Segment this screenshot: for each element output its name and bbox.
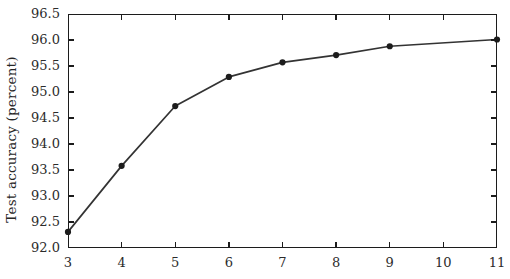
x-tick-mark xyxy=(282,242,283,248)
x-tick-label: 8 xyxy=(316,255,356,270)
y-tick-label: 95.0 xyxy=(31,84,60,99)
y-tick-mark xyxy=(491,143,497,144)
y-tick-mark xyxy=(68,117,74,118)
y-tick-label: 92.5 xyxy=(31,214,60,229)
plot-area-frame xyxy=(68,14,497,248)
x-tick-mark xyxy=(175,242,176,248)
x-tick-mark xyxy=(389,242,390,248)
x-tick-mark xyxy=(443,14,444,20)
x-tick-mark xyxy=(443,242,444,248)
x-tick-label: 4 xyxy=(102,255,142,270)
y-tick-label: 96.5 xyxy=(31,6,60,21)
y-tick-mark xyxy=(68,143,74,144)
y-tick-label: 95.5 xyxy=(31,58,60,73)
y-tick-mark xyxy=(491,221,497,222)
y-tick-mark xyxy=(491,195,497,196)
x-tick-mark xyxy=(335,242,336,248)
y-tick-label: 93.0 xyxy=(31,188,60,203)
y-tick-mark xyxy=(68,169,74,170)
x-tick-label: 5 xyxy=(155,255,195,270)
x-tick-label: 10 xyxy=(423,255,463,270)
y-tick-label: 93.5 xyxy=(31,162,60,177)
x-tick-mark xyxy=(175,14,176,20)
x-tick-label: 3 xyxy=(48,255,88,270)
x-tick-label: 7 xyxy=(263,255,303,270)
x-tick-mark xyxy=(282,14,283,20)
y-tick-mark xyxy=(491,39,497,40)
x-tick-label: 11 xyxy=(477,255,510,270)
y-tick-label: 96.0 xyxy=(31,32,60,47)
y-axis-label: Test accuracy (percent) xyxy=(0,0,22,279)
y-tick-label: 92.0 xyxy=(31,240,60,255)
y-tick-mark xyxy=(68,39,74,40)
x-tick-mark xyxy=(228,242,229,248)
y-tick-mark xyxy=(491,65,497,66)
y-tick-mark xyxy=(68,65,74,66)
y-tick-mark xyxy=(68,91,74,92)
y-tick-label: 94.0 xyxy=(31,136,60,151)
x-tick-label: 9 xyxy=(370,255,410,270)
x-tick-mark xyxy=(121,242,122,248)
y-tick-mark xyxy=(68,195,74,196)
y-tick-label: 94.5 xyxy=(31,110,60,125)
x-tick-mark xyxy=(389,14,390,20)
y-tick-mark xyxy=(491,117,497,118)
x-tick-mark xyxy=(335,14,336,20)
y-tick-mark xyxy=(491,169,497,170)
x-tick-label: 6 xyxy=(209,255,249,270)
y-tick-mark xyxy=(491,91,497,92)
x-tick-mark xyxy=(228,14,229,20)
chart-figure: Test accuracy (percent) 92.092.593.093.5… xyxy=(0,0,510,279)
y-tick-mark xyxy=(68,221,74,222)
x-tick-mark xyxy=(121,14,122,20)
